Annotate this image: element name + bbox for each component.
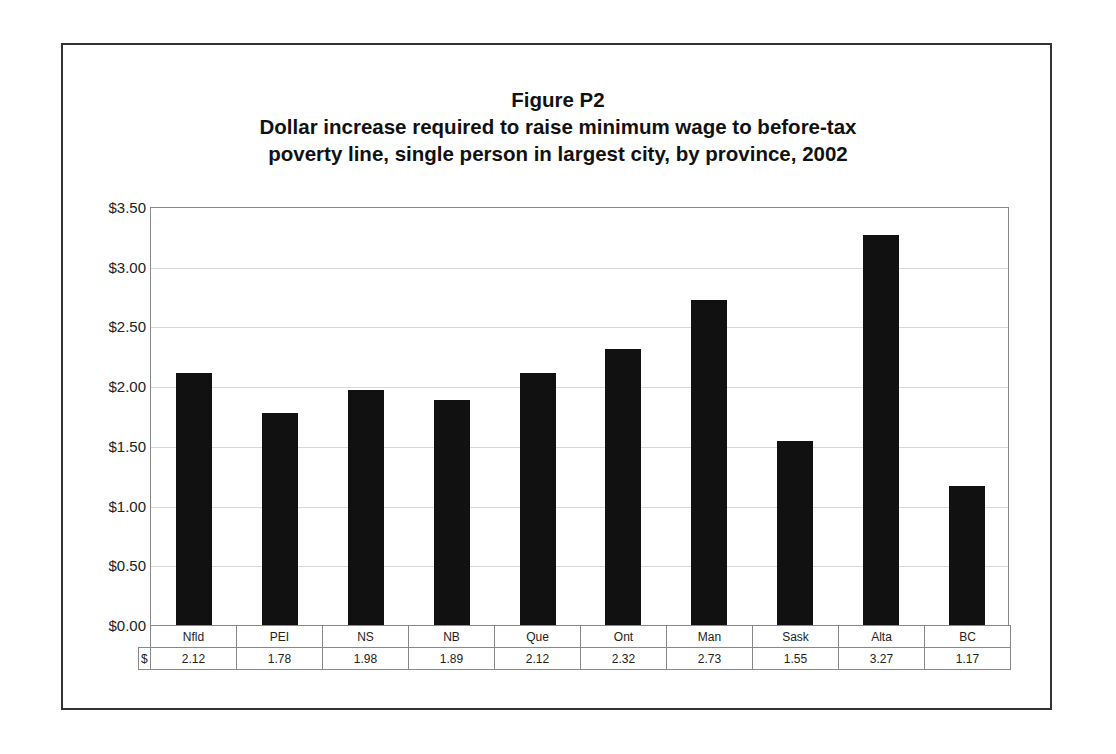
category-label: Man xyxy=(667,626,753,648)
bar-ont xyxy=(605,349,641,626)
subtitle-line-1: Dollar increase required to raise minimu… xyxy=(0,113,1116,140)
subtitle-line-2: poverty line, single person in largest c… xyxy=(0,140,1116,167)
chart-title: Figure P2 Dollar increase required to ra… xyxy=(0,86,1116,167)
category-row: NfldPEINSNBQueOntManSaskAltaBC xyxy=(139,626,1011,648)
value-cell: 1.89 xyxy=(409,648,495,670)
bar-que xyxy=(520,373,556,626)
category-label: BC xyxy=(925,626,1011,648)
category-label: Ont xyxy=(581,626,667,648)
category-label: NB xyxy=(409,626,495,648)
category-label: Alta xyxy=(839,626,925,648)
category-label: Nfld xyxy=(151,626,237,648)
value-cell: 2.12 xyxy=(151,648,237,670)
value-cell: 2.73 xyxy=(667,648,753,670)
data-table: NfldPEINSNBQueOntManSaskAltaBC $ 2.121.7… xyxy=(138,625,1011,670)
value-cell: 1.17 xyxy=(925,648,1011,670)
y-tick-label: $1.50 xyxy=(108,437,146,454)
y-tick-label: $2.50 xyxy=(108,318,146,335)
category-label: Que xyxy=(495,626,581,648)
y-tick-label: $0.50 xyxy=(108,557,146,574)
bar-bc xyxy=(949,486,985,626)
category-label: NS xyxy=(323,626,409,648)
plot-area xyxy=(150,207,1009,625)
value-cell: 2.32 xyxy=(581,648,667,670)
bar-ns xyxy=(348,390,384,626)
value-cell: 3.27 xyxy=(839,648,925,670)
y-tick-label: $2.00 xyxy=(108,378,146,395)
bar-man xyxy=(691,300,727,626)
category-label: PEI xyxy=(237,626,323,648)
value-cell: 1.55 xyxy=(753,648,839,670)
bar-pei xyxy=(262,413,298,626)
bar-alta xyxy=(863,235,899,626)
category-label: Sask xyxy=(753,626,839,648)
y-tick-label: $3.00 xyxy=(108,258,146,275)
y-tick-label: $3.50 xyxy=(108,199,146,216)
bar-nb xyxy=(434,400,470,626)
y-tick-label: $1.00 xyxy=(108,497,146,514)
value-row: $ 2.121.781.981.892.122.322.731.553.271.… xyxy=(139,648,1011,670)
row-label: $ xyxy=(139,648,151,670)
bar-nfld xyxy=(176,373,212,626)
y-tick-label: $0.00 xyxy=(108,617,146,634)
value-cell: 1.98 xyxy=(323,648,409,670)
value-cell: 2.12 xyxy=(495,648,581,670)
figure-label: Figure P2 xyxy=(0,86,1116,113)
bar-sask xyxy=(777,441,813,626)
value-cell: 1.78 xyxy=(237,648,323,670)
